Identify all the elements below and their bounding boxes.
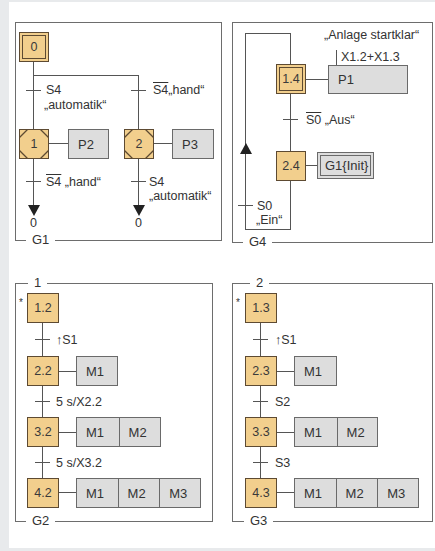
- g4-link: [290, 33, 291, 230]
- g3-transition-tick: [253, 339, 268, 340]
- g2-marker: *: [19, 296, 23, 310]
- g2-step-label: 3.2: [34, 425, 51, 439]
- g1-step-2[interactable]: 2: [124, 129, 154, 159]
- g2-action-link: [59, 492, 76, 493]
- g4-transition-ein-text: „Ein“: [256, 213, 282, 227]
- g3-transition: S3: [275, 456, 290, 470]
- g2-link: [42, 300, 43, 495]
- g3-transition: ↑S1: [275, 333, 297, 347]
- g4-step-2-4-label: 2.4: [282, 159, 299, 173]
- g3-transition-tick: [253, 401, 268, 402]
- g3-step[interactable]: 2.3: [245, 356, 277, 386]
- g4-transition-ein-var: S0: [257, 199, 272, 213]
- g1-transition-right: S4„hand“: [153, 83, 204, 97]
- g2-action[interactable]: M3: [159, 478, 201, 508]
- g4-action-link: [306, 79, 328, 80]
- g4-step-2-4[interactable]: 2.4: [276, 151, 306, 181]
- g1-action-p3[interactable]: P3: [172, 129, 214, 159]
- arrow-down-icon: [28, 205, 40, 216]
- g1-step-2-label: 2: [136, 137, 143, 151]
- g4-action-condition-tick: [336, 50, 337, 65]
- g2-action[interactable]: M1: [76, 356, 118, 386]
- g2-step[interactable]: 3.2: [27, 417, 59, 447]
- g1-label: G1: [26, 233, 55, 247]
- g3-step[interactable]: 3.3: [245, 417, 277, 447]
- arrow-up-icon: [240, 143, 252, 154]
- g2-label: G2: [26, 514, 55, 528]
- g2-transition: 5 s/X2.2: [56, 395, 102, 409]
- g3-action-link: [277, 432, 294, 433]
- g1-initial-step[interactable]: 0: [19, 32, 49, 62]
- g4-action-condition: X1.2+X1.3: [341, 50, 400, 64]
- g3-label: G3: [244, 514, 273, 528]
- g4-action-g1-init[interactable]: G1{Init}: [317, 152, 374, 179]
- g2-transition-tick: [35, 462, 50, 463]
- g1-exit-right-var: S4: [149, 175, 164, 189]
- g2-action-link: [59, 432, 76, 433]
- g1-step-0-label: 0: [31, 40, 38, 54]
- g1-transition-tick: [131, 181, 146, 182]
- g1-exit-right-text: „automatik“: [149, 189, 212, 203]
- g2-action[interactable]: M2: [119, 417, 161, 447]
- g4-transition-tick: [283, 119, 298, 120]
- g4-loop-top: [245, 33, 291, 34]
- g4-action-p1[interactable]: P1: [328, 65, 408, 94]
- g3-action[interactable]: M1: [294, 356, 337, 386]
- g3-action[interactable]: M3: [377, 478, 419, 508]
- g1-action-link: [154, 143, 172, 144]
- g1-link: [138, 159, 139, 207]
- g1-exit-left-target: 0: [30, 216, 37, 230]
- g1-action-p2[interactable]: P2: [68, 129, 109, 159]
- g2-step[interactable]: 2.2: [27, 356, 59, 386]
- g2-step-label: 2.2: [34, 364, 51, 378]
- g3-link: [260, 300, 261, 495]
- g3-action-link: [277, 371, 294, 372]
- g4-step-1-4-label: 1.4: [282, 72, 299, 86]
- g1-transition-tick: [26, 181, 41, 182]
- g4-step-1-4[interactable]: 1.4: [276, 64, 306, 94]
- g3-action[interactable]: M1: [294, 478, 337, 508]
- g2-action-link: [59, 371, 76, 372]
- g1-link: [138, 75, 139, 129]
- g3-step-label: 4.3: [252, 486, 269, 500]
- g1-step-1-label: 1: [31, 137, 38, 151]
- g1-transition-tick: [131, 90, 146, 91]
- g2-transition: ↑S1: [56, 333, 78, 347]
- g4-transition-tick: [238, 205, 253, 206]
- g4-loop-left: [245, 33, 246, 230]
- g3-partition-label: 2: [250, 276, 269, 290]
- g2-transition: 5 s/X3.2: [56, 456, 102, 470]
- g1-transition-left-text: „automatik“: [44, 98, 107, 112]
- g3-action[interactable]: M1: [294, 417, 338, 447]
- g1-exit-right-target: 0: [135, 216, 142, 230]
- g3-marker: *: [236, 296, 240, 310]
- g2-transition-tick: [35, 401, 50, 402]
- g3-step-label: 2.3: [252, 364, 269, 378]
- g4-annotation: „Anlage startklar“: [324, 28, 419, 42]
- g3-step[interactable]: 4.3: [245, 478, 277, 508]
- g3-action[interactable]: M2: [336, 478, 379, 508]
- g2-partition-label: 1: [28, 276, 47, 290]
- g1-link: [33, 62, 34, 129]
- g2-action[interactable]: M2: [118, 478, 161, 508]
- g2-step[interactable]: 1.2: [27, 293, 59, 323]
- g1-action-link: [49, 143, 68, 144]
- arrow-down-icon: [133, 205, 145, 216]
- g4-label: G4: [243, 235, 272, 249]
- g4-action-g1-init-label: G1{Init}: [325, 158, 368, 173]
- g3-action[interactable]: M2: [337, 417, 378, 447]
- g3-transition: S2: [275, 395, 290, 409]
- g2-step[interactable]: 4.2: [27, 478, 59, 508]
- g3-step[interactable]: 1.3: [245, 293, 277, 323]
- g4-action-link: [306, 165, 317, 166]
- g3-transition-tick: [253, 462, 268, 463]
- g1-branch-horizontal: [33, 75, 139, 76]
- g4-transition-aus: S0 „Aus“: [306, 113, 355, 127]
- g2-action[interactable]: M1: [76, 417, 120, 447]
- g1-transition-tick: [26, 90, 41, 91]
- g2-action[interactable]: M1: [76, 478, 119, 508]
- g1-transition-left-var: S4: [46, 83, 61, 97]
- g1-step-1[interactable]: 1: [19, 129, 49, 159]
- g1-exit-left: S4 „hand“: [46, 175, 101, 189]
- g3-action-link: [277, 492, 294, 493]
